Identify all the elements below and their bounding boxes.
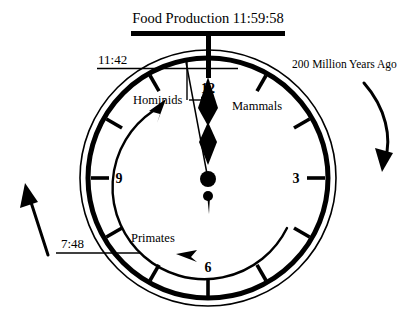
header-rule xyxy=(131,31,285,36)
page-title: Food Production 11:59:58 xyxy=(132,10,284,26)
label-primates: Primates xyxy=(131,231,175,245)
second-hand-upper xyxy=(186,62,208,179)
label-time-0748: 7:48 xyxy=(61,236,84,251)
second-hand xyxy=(207,196,210,214)
clock-numeral-6: 6 xyxy=(205,260,212,275)
time-direction-arrow-right-head xyxy=(375,148,393,172)
clock-numeral-9: 9 xyxy=(116,171,123,186)
figure-canvas: Food Production 11:59:58 12 3 6 xyxy=(0,0,417,317)
label-hominids: Hominids xyxy=(133,93,182,107)
caption-200-million-years-ago: 200 Million Years Ago xyxy=(292,58,397,71)
time-direction-arrow-left xyxy=(29,196,48,255)
time-direction-arrow-left-head xyxy=(20,183,38,208)
sweep-arrowhead-bottom xyxy=(176,250,197,262)
label-mammals: Mammals xyxy=(232,99,282,113)
label-time-1142: 11:42 xyxy=(98,52,127,67)
clock-numeral-3: 3 xyxy=(293,171,300,186)
